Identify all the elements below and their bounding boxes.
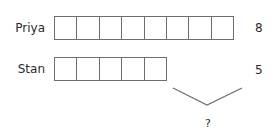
difference-brace-icon bbox=[0, 0, 280, 139]
difference-unknown-label: ? bbox=[200, 117, 216, 130]
